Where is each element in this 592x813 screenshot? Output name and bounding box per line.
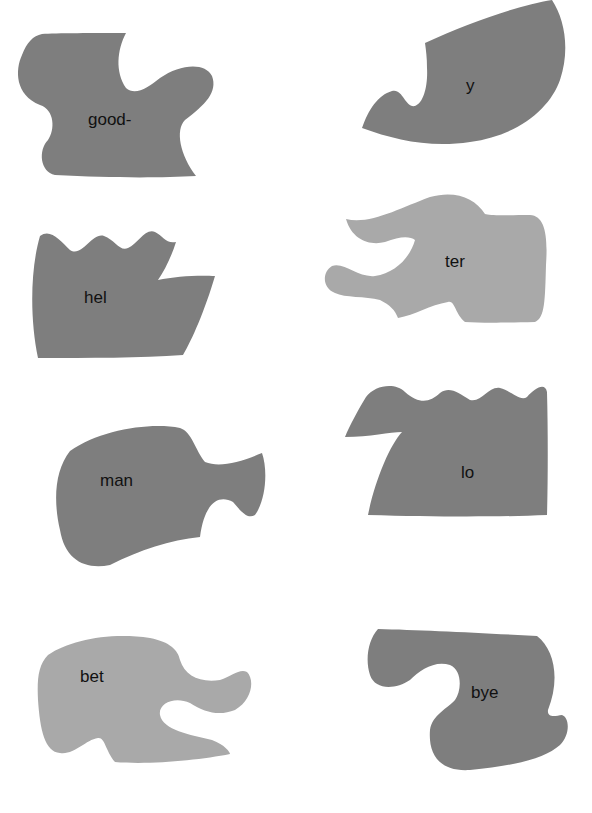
piece-label-hel: hel [84, 288, 107, 307]
puzzle-piece-bye[interactable]: bye [368, 629, 568, 770]
puzzle-piece-ter[interactable]: ter [325, 194, 547, 322]
puzzle-shape-good [18, 33, 213, 177]
puzzle-piece-good[interactable]: good- [18, 33, 213, 177]
piece-label-good: good- [88, 110, 131, 129]
puzzle-shape-bet [38, 636, 252, 763]
puzzle-shape-bye [368, 629, 568, 770]
puzzle-shape-man [56, 426, 265, 566]
puzzle-shape-hel [32, 231, 215, 358]
piece-label-ter: ter [445, 252, 465, 271]
piece-label-lo: lo [461, 463, 474, 482]
piece-label-bet: bet [80, 667, 104, 686]
piece-label-man: man [100, 471, 133, 490]
puzzle-piece-hel[interactable]: hel [32, 231, 215, 358]
piece-label-y: y [466, 76, 475, 95]
puzzle-worksheet: good- y hel ter man lo bet bye [0, 0, 592, 813]
puzzle-shape-y [362, 0, 565, 144]
puzzle-piece-man[interactable]: man [56, 426, 265, 566]
puzzle-piece-lo[interactable]: lo [345, 386, 548, 517]
piece-label-bye: bye [471, 683, 498, 702]
puzzle-piece-y[interactable]: y [362, 0, 565, 144]
puzzle-shape-ter [325, 194, 547, 322]
puzzle-piece-bet[interactable]: bet [38, 636, 252, 763]
puzzle-shape-lo [345, 386, 548, 517]
